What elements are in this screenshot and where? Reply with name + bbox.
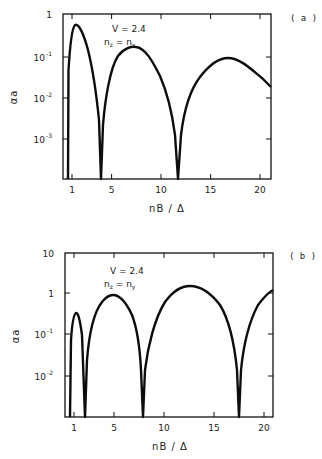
panel-tag-b: ( b ) [289, 251, 316, 261]
svg-text:10: 10 [158, 423, 170, 433]
svg-text:10: 10 [35, 330, 47, 340]
svg-text:20: 20 [258, 423, 270, 433]
svg-text:1: 1 [71, 423, 77, 433]
annotation-b: V = 2.4 nz = ny [104, 266, 144, 291]
svg-text:nz = ny: nz = ny [104, 279, 136, 291]
plot-frame-b [65, 253, 273, 417]
svg-text:1: 1 [48, 289, 54, 299]
svg-text:V = 2.4: V = 2.4 [110, 266, 144, 276]
y-axis-title-b: αa [10, 329, 21, 344]
plot-b: 1 5 10 15 20 10 1 10 -1 10 -2 nB / Δ αa … [0, 0, 322, 459]
panel-b: 1 5 10 15 20 10 1 10 -1 10 -2 nB / Δ αa … [0, 0, 322, 459]
svg-text:10: 10 [43, 249, 55, 259]
svg-text:-2: -2 [47, 369, 53, 376]
y-tick-labels-b: 10 1 10 -1 10 -2 [35, 249, 55, 382]
svg-text:10: 10 [35, 372, 47, 382]
curve-b [70, 286, 273, 417]
svg-text:5: 5 [111, 423, 117, 433]
x-ticks-b [74, 253, 264, 417]
svg-text:15: 15 [208, 423, 219, 433]
svg-text:-1: -1 [47, 327, 53, 334]
x-tick-labels-b: 1 5 10 15 20 [71, 423, 270, 433]
x-axis-title-b: nB / Δ [152, 441, 188, 452]
